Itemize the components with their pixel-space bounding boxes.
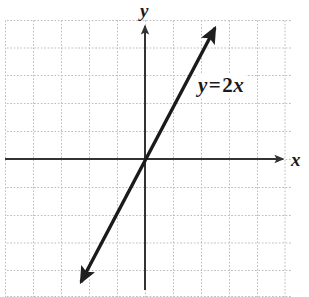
line-equation-label: y=2x xyxy=(196,74,246,97)
equation-coefficient: 2 xyxy=(222,73,233,97)
y-axis-label: y xyxy=(140,1,148,20)
equation-lhs: y xyxy=(198,73,208,97)
equation-equals-sign: = xyxy=(208,73,222,97)
coordinate-plane xyxy=(0,0,309,297)
x-axis-label: x xyxy=(291,150,301,169)
equation-variable: x xyxy=(233,73,244,97)
graph-figure: y x y=2x xyxy=(0,0,309,297)
line-y-equals-2x xyxy=(81,28,215,282)
